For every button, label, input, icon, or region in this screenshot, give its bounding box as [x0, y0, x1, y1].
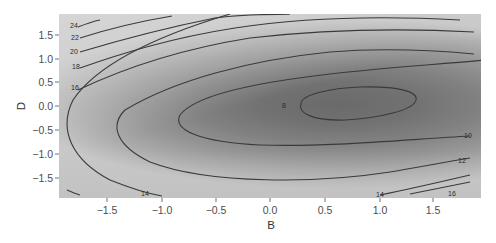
y-tick-label: 1.0	[38, 53, 53, 65]
x-tick-label: 0.0	[263, 204, 278, 216]
x-tick-label: 1.0	[373, 204, 388, 216]
plot-panel	[59, 14, 481, 198]
contour-label: 22	[71, 34, 79, 41]
x-axis: −1.5 −1.0 −0.5 0.0 0.5 1.0 1.5 B	[97, 198, 441, 231]
contour-label: 12	[458, 157, 466, 164]
contour-label: 16	[71, 84, 79, 91]
y-axis-title: D	[15, 102, 27, 110]
x-tick-label: −1.5	[97, 204, 118, 216]
y-tick-label: 0.0	[38, 100, 53, 112]
y-tick-label: 1.5	[38, 29, 53, 41]
contour-label: 24	[70, 22, 78, 29]
x-tick-label: −0.5	[206, 204, 227, 216]
contour-chart: 24 22 20 18 16 8 10 12 14 14 16 −1.5 −1.…	[0, 0, 496, 243]
x-tick-label: 0.5	[318, 204, 333, 216]
y-tick-label: −0.5	[32, 124, 53, 136]
contour-label: 8	[282, 102, 286, 109]
contour-label: 14	[376, 191, 384, 198]
contour-label: 20	[70, 48, 78, 55]
x-axis-title: B	[267, 219, 275, 231]
contour-label: 16	[448, 190, 456, 197]
heatmap-bottom-fade	[59, 14, 481, 198]
y-axis: 1.5 1.0 0.5 0.0 −0.5 −1.0 −1.5 D	[15, 29, 59, 184]
y-tick-label: −1.5	[32, 172, 53, 184]
x-tick-label: 1.5	[426, 204, 441, 216]
y-tick-label: 0.5	[38, 76, 53, 88]
x-tick-label: −1.0	[152, 204, 173, 216]
contour-label: 14	[141, 190, 149, 197]
contour-label: 10	[464, 132, 472, 139]
contour-label: 18	[72, 63, 80, 70]
y-tick-label: −1.0	[32, 148, 53, 160]
